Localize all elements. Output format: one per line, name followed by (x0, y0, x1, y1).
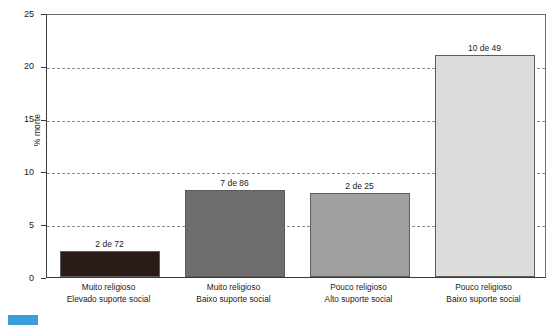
bar-value-label: 7 de 86 (185, 179, 285, 188)
x-axis-category-label: Pouco religiosoBaixo suporte social (421, 282, 546, 305)
bar[interactable] (310, 193, 410, 277)
bar-value-label: 2 de 25 (310, 182, 410, 191)
x-axis-category-label: Muito religiosoElevado suporte social (46, 282, 171, 305)
y-axis-tick-label: 20 (4, 62, 34, 71)
x-axis-label-line-2: Baixo suporte social (171, 294, 296, 306)
x-axis-label-line-1: Muito religioso (171, 282, 296, 294)
bar-value-label: 2 de 72 (60, 240, 160, 249)
x-axis-category-label: Pouco religiosoAlto suporte social (296, 282, 421, 305)
bar[interactable] (435, 55, 535, 277)
bar-chart-figure: % morte 2520151050 2 de 727 de 862 de 25… (0, 0, 560, 325)
x-axis-category-labels: Muito religiosoElevado suporte socialMui… (46, 282, 546, 318)
x-axis-label-line-2: Elevado suporte social (46, 294, 171, 306)
y-axis-tick-label: 25 (4, 10, 34, 19)
y-axis-tick-mark (41, 278, 46, 279)
y-axis-tick-label: 15 (4, 115, 34, 124)
x-axis-label-line-1: Pouco religioso (421, 282, 546, 294)
x-axis-label-line-2: Alto suporte social (296, 294, 421, 306)
bars-layer: 2 de 727 de 862 de 2510 de 49 (47, 15, 545, 277)
bar[interactable] (60, 251, 160, 277)
y-axis-tick-label: 0 (4, 274, 34, 283)
x-axis-label-line-1: Muito religioso (46, 282, 171, 294)
plot-area: 2 de 727 de 862 de 2510 de 49 (46, 14, 546, 278)
y-axis-tick-label: 5 (4, 221, 34, 230)
x-axis-label-line-1: Pouco religioso (296, 282, 421, 294)
y-axis-tick-label: 10 (4, 168, 34, 177)
x-axis-label-line-2: Baixo suporte social (421, 294, 546, 306)
x-axis-category-label: Muito religiosoBaixo suporte social (171, 282, 296, 305)
corner-ui-artifact[interactable] (8, 315, 38, 325)
bar-value-label: 10 de 49 (435, 44, 535, 53)
bar[interactable] (185, 190, 285, 277)
y-axis-tick-labels: 2520151050 (0, 0, 44, 325)
